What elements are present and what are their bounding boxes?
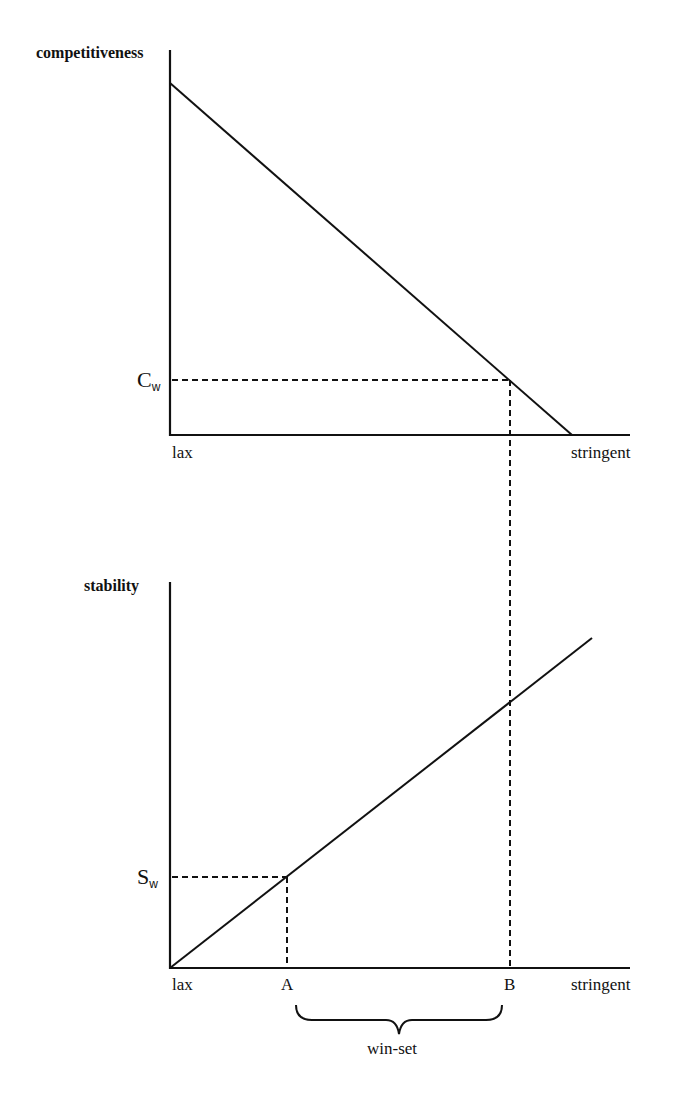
sw-label: Sw <box>137 866 158 890</box>
top-stringent-label: stringent <box>571 444 631 461</box>
stability-axis-label: stability <box>84 578 139 594</box>
top-panel-axes <box>169 50 630 436</box>
point-a-label: A <box>281 976 293 993</box>
bottom-lax-label: lax <box>172 976 193 993</box>
stability-line <box>170 638 592 968</box>
competitiveness-axis-label: competitiveness <box>36 45 144 61</box>
cw-label: Cw <box>137 369 160 393</box>
diagram-canvas <box>0 0 692 1108</box>
sw-main: S <box>137 864 149 889</box>
competitiveness-line <box>170 83 572 435</box>
win-set-label: win-set <box>367 1040 417 1057</box>
sw-sub: w <box>149 877 158 891</box>
bottom-stringent-label: stringent <box>571 976 631 993</box>
point-b-label: B <box>504 976 515 993</box>
bottom-panel-axes <box>169 582 630 969</box>
cw-main: C <box>137 367 152 392</box>
cw-sub: w <box>152 380 161 394</box>
top-lax-label: lax <box>172 444 193 461</box>
win-set-brace <box>296 1005 502 1034</box>
